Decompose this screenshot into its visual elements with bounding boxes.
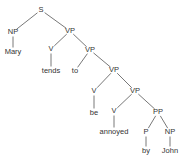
node-np1: NP	[8, 27, 18, 36]
node-v2: V	[91, 86, 96, 95]
node-p: P	[143, 127, 148, 136]
node-np2: NP	[165, 127, 175, 136]
node-pp: PP	[153, 107, 163, 116]
node-to: to	[72, 66, 78, 75]
edge-vp1-v1	[54, 34, 66, 46]
node-v3: V	[111, 106, 116, 115]
node-tends: tends	[42, 66, 61, 75]
syntax-tree-diagram: SNPMaryVPVtendsVPtoVPVbeVPVannoyedPPPbyN…	[0, 0, 185, 157]
edge-s-np1	[17, 13, 38, 29]
tree-nodes: SNPMaryVPVtendsVPtoVPVbeVPVannoyedPPPbyN…	[5, 5, 178, 155]
edge-pp-p	[148, 116, 155, 128]
node-vp1: VP	[65, 26, 75, 35]
node-john: John	[162, 146, 178, 155]
edge-vp4-v3	[117, 94, 131, 108]
node-v1: V	[48, 44, 53, 53]
edge-vp2-to	[78, 54, 88, 68]
edge-vp3-v2	[97, 73, 111, 87]
node-mary: Mary	[5, 47, 22, 56]
node-s: S	[38, 5, 43, 14]
node-vp3: VP	[109, 65, 119, 74]
node-vp4: VP	[130, 86, 140, 95]
node-be: be	[90, 108, 98, 117]
node-vp2: VP	[85, 45, 95, 54]
edge-vp2-vp3	[93, 53, 110, 67]
edge-s-vp1	[45, 13, 67, 29]
node-annoyed: annoyed	[100, 127, 129, 136]
node-by: by	[142, 146, 150, 155]
